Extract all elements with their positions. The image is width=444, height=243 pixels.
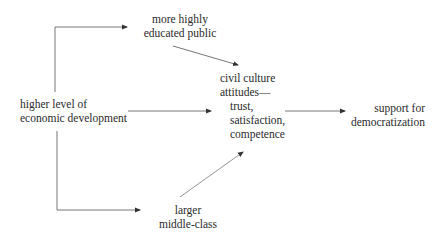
edge-educated-to-civil-culture: [173, 46, 238, 65]
node-middle-class: larger middle-class: [148, 203, 228, 231]
node-text-line: educated public: [135, 26, 225, 40]
node-text-line: attitudes—: [220, 85, 310, 99]
node-democratization: support for democratization: [340, 101, 425, 129]
node-civil-culture: civil culture attitudes— trust, satisfac…: [220, 71, 310, 141]
node-text-line: competence: [220, 127, 310, 141]
node-text-line: civil culture: [220, 71, 310, 85]
node-text-line: higher level of: [20, 97, 140, 111]
node-text-line: middle-class: [148, 217, 228, 231]
edge-economic-to-educated: [55, 27, 127, 92]
node-text-line: larger: [148, 203, 228, 217]
edge-middle-class-to-civil-culture: [180, 152, 243, 197]
edge-economic-to-middle-class: [57, 131, 140, 210]
node-text-line: economic development: [20, 111, 140, 125]
node-text-line: trust,: [220, 99, 310, 113]
node-economic-development: higher level of economic development: [20, 97, 140, 125]
node-educated-public: more highly educated public: [135, 12, 225, 40]
node-text-line: democratization: [340, 115, 425, 129]
node-text-line: more highly: [135, 12, 225, 26]
node-text-line: satisfaction,: [220, 113, 310, 127]
node-text-line: support for: [340, 101, 425, 115]
